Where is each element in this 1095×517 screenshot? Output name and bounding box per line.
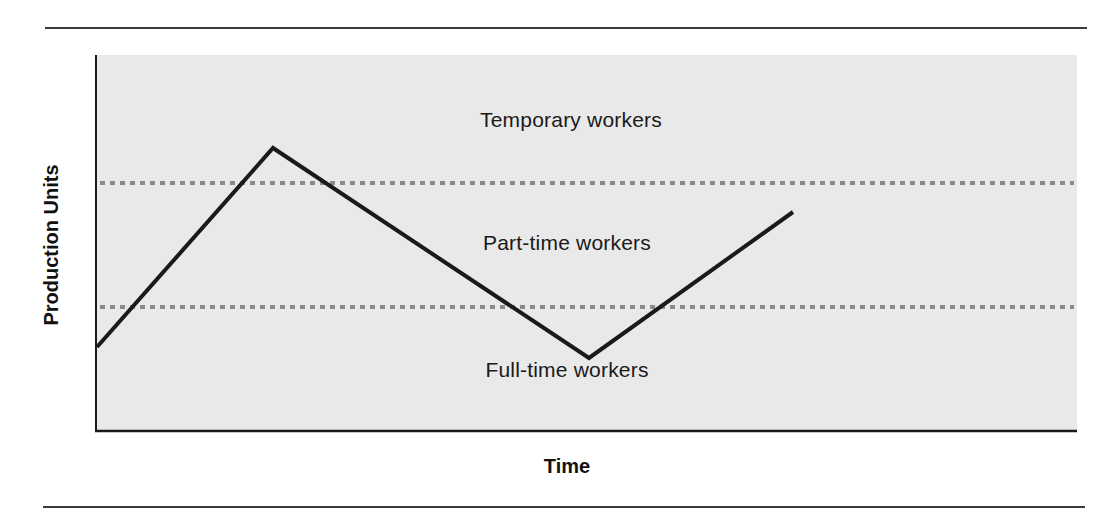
chart-svg (0, 0, 1095, 517)
full-time-workers-label: Full-time workers (485, 358, 648, 382)
x-axis-label: Time (544, 455, 590, 478)
part-time-workers-label: Part-time workers (483, 231, 651, 255)
temporary-workers-label: Temporary workers (480, 108, 662, 132)
y-axis-label: Production Units (40, 164, 63, 325)
bottom-rule (43, 506, 1085, 508)
production-line (97, 148, 793, 358)
